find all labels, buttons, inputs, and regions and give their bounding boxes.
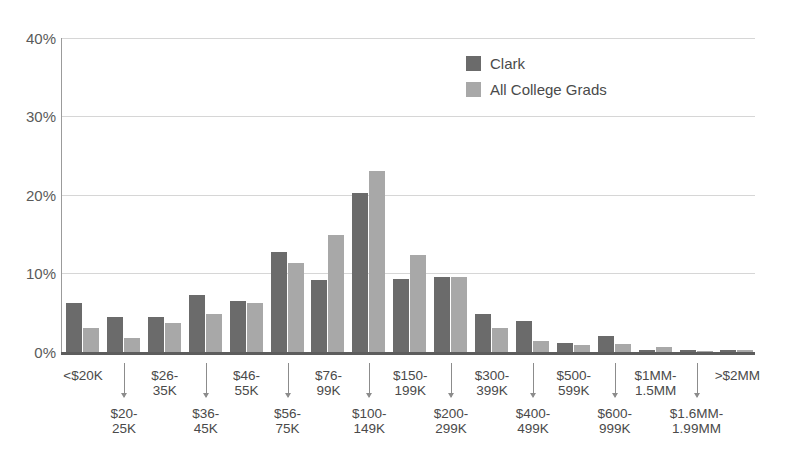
x-label-arrow-icon — [288, 363, 289, 397]
income-distribution-chart: 40% 30% 20% 10% 0% Clark All College Gra… — [0, 0, 785, 462]
bar-all-college-grads — [656, 347, 672, 352]
bar-all-college-grads — [697, 351, 713, 352]
bar-clark — [148, 317, 164, 352]
chart-legend: Clark All College Grads — [466, 52, 607, 104]
bar-groups — [62, 38, 755, 352]
x-label-line2: 99K — [293, 383, 363, 398]
x-label-arrow-icon — [697, 363, 698, 397]
bar-clark — [107, 317, 123, 352]
x-label-line1: <$20K — [48, 368, 118, 383]
x-label-line1: $56- — [253, 406, 323, 421]
bar-all-college-grads — [288, 263, 304, 352]
x-label-line1: $1MM- — [621, 368, 691, 383]
bar-group — [271, 38, 305, 352]
x-label-line1: $20- — [89, 406, 159, 421]
bar-all-college-grads — [533, 341, 549, 352]
x-label-line1: $400- — [498, 406, 568, 421]
legend-swatch-clark — [466, 56, 481, 71]
bar-group — [680, 38, 714, 352]
bar-clark — [639, 350, 655, 352]
x-label-line1: $200- — [416, 406, 486, 421]
x-axis-label: $200-299K — [416, 406, 486, 436]
y-tick-10: 10% — [10, 266, 56, 281]
x-label-line2: 599K — [539, 383, 609, 398]
x-label-line1: $46- — [212, 368, 282, 383]
bar-group — [352, 38, 386, 352]
x-label-line2: 299K — [416, 421, 486, 436]
bar-all-college-grads — [737, 350, 753, 352]
bar-all-college-grads — [615, 344, 631, 352]
x-label-line1: $36- — [171, 406, 241, 421]
x-label-line1: $26- — [130, 368, 200, 383]
x-axis-labels: <$20K$26-35K$46-55K$76-99K$150-199K$300-… — [0, 355, 785, 462]
legend-label-all-college-grads: All College Grads — [490, 81, 607, 98]
bar-all-college-grads — [369, 171, 385, 352]
bar-clark — [475, 314, 491, 352]
bar-clark — [720, 350, 736, 352]
bar-all-college-grads — [206, 314, 222, 352]
bar-group — [189, 38, 223, 352]
legend-item-clark: Clark — [466, 52, 607, 74]
bar-all-college-grads — [328, 235, 344, 352]
x-axis-label: $1.6MM-1.99MM — [662, 406, 732, 436]
y-tick-30: 30% — [10, 109, 56, 124]
bar-clark — [598, 336, 614, 352]
x-label-line2: 1.5MM — [621, 383, 691, 398]
x-axis-label: $500-599K — [539, 368, 609, 398]
x-label-line2: 45K — [171, 421, 241, 436]
bar-all-college-grads — [83, 328, 99, 352]
bar-clark — [516, 321, 532, 352]
x-label-line2: 149K — [334, 421, 404, 436]
bar-all-college-grads — [451, 277, 467, 352]
bar-clark — [352, 193, 368, 352]
x-axis-label: $46-55K — [212, 368, 282, 398]
x-label-line1: $1.6MM- — [662, 406, 732, 421]
bar-all-college-grads — [574, 345, 590, 352]
x-label-line2: 1.99MM — [662, 421, 732, 436]
x-axis-label: >$2MM — [702, 368, 772, 383]
x-axis-label: $1MM-1.5MM — [621, 368, 691, 398]
bar-group — [434, 38, 468, 352]
y-tick-40: 40% — [10, 31, 56, 46]
x-axis-label: <$20K — [48, 368, 118, 383]
x-label-arrow-icon — [369, 363, 370, 397]
x-axis-label: $300-399K — [457, 368, 527, 398]
x-label-arrow-icon — [615, 363, 616, 397]
x-label-line1: $300- — [457, 368, 527, 383]
bar-all-college-grads — [410, 255, 426, 352]
bar-clark — [680, 350, 696, 352]
bar-group — [720, 38, 754, 352]
bar-all-college-grads — [247, 303, 263, 352]
bar-clark — [271, 252, 287, 352]
x-label-line1: $100- — [334, 406, 404, 421]
x-label-line2: 199K — [375, 383, 445, 398]
bar-group — [639, 38, 673, 352]
bar-clark — [311, 280, 327, 352]
bar-all-college-grads — [124, 338, 140, 352]
x-label-line1: >$2MM — [702, 368, 772, 383]
bar-clark — [557, 343, 573, 352]
bar-group — [230, 38, 264, 352]
x-label-arrow-icon — [533, 363, 534, 397]
x-label-line2: 499K — [498, 421, 568, 436]
bar-group — [311, 38, 345, 352]
x-axis-label: $400-499K — [498, 406, 568, 436]
x-label-line1: $150- — [375, 368, 445, 383]
legend-label-clark: Clark — [490, 55, 525, 72]
x-label-line2: 55K — [212, 383, 282, 398]
x-label-line2: 75K — [253, 421, 323, 436]
bar-group — [66, 38, 100, 352]
x-axis-label: $56-75K — [253, 406, 323, 436]
x-axis-label: $26-35K — [130, 368, 200, 398]
bar-clark — [189, 295, 205, 352]
bar-clark — [230, 301, 246, 352]
x-label-line2: 35K — [130, 383, 200, 398]
x-axis-label: $20-25K — [89, 406, 159, 436]
x-label-line2: 999K — [580, 421, 650, 436]
bar-group — [107, 38, 141, 352]
legend-item-all-college-grads: All College Grads — [466, 78, 607, 100]
bar-group — [148, 38, 182, 352]
bar-clark — [66, 303, 82, 352]
x-label-line2: 25K — [89, 421, 159, 436]
x-label-arrow-icon — [124, 363, 125, 397]
